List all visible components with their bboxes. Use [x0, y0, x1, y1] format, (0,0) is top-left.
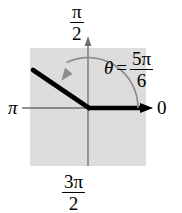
axis-label-pi-over-two: π 2	[70, 2, 84, 44]
fraction-numerator: π	[70, 2, 84, 23]
fraction-five-pi-over-six: 5π 6	[130, 49, 153, 91]
fraction-three-pi-over-two: 3π 2	[62, 172, 85, 213]
fraction-numerator: 5π	[130, 49, 153, 70]
axis-label-three-pi-over-two: 3π 2	[62, 172, 85, 213]
fraction-pi-over-two: π 2	[70, 2, 84, 44]
terminal-side-ray	[33, 70, 89, 108]
fraction-denominator: 2	[70, 23, 84, 43]
fraction-denominator: 6	[130, 70, 153, 90]
diagram-canvas	[0, 0, 182, 213]
initial-side-ray	[88, 103, 153, 113]
fraction-numerator: 3π	[62, 172, 85, 193]
angle-arc-arrowhead-icon	[62, 68, 73, 81]
equals-sign: =	[113, 57, 130, 78]
angle-value-label: θ= 5π 6	[104, 49, 153, 91]
axis-label-pi: π	[8, 98, 18, 117]
fraction-denominator: 2	[62, 193, 85, 213]
initial-side-arrowhead-icon	[140, 103, 153, 113]
theta-symbol: θ	[104, 57, 113, 78]
axis-label-zero: 0	[157, 98, 167, 117]
angle-diagram-figure: π 2 3π 2 π 0 θ= 5π 6	[0, 0, 182, 213]
y-axis-arrowhead-icon	[85, 36, 92, 46]
